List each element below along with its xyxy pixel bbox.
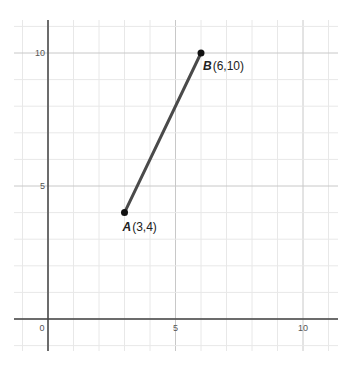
coordinate-plane[interactable]: 0510510 A(3,4)B(6,10)	[0, 0, 351, 367]
point-a[interactable]	[121, 209, 128, 216]
x-tick-label: 10	[298, 323, 308, 333]
tick-labels: 0510510	[35, 48, 308, 333]
point-b[interactable]	[198, 50, 205, 57]
grid-lines	[14, 20, 338, 351]
point-labels: A(3,4)B(6,10)	[122, 59, 245, 234]
point-label-b: B(6,10)	[203, 59, 244, 73]
x-tick-label: 5	[173, 323, 178, 333]
point-label-a: A(3,4)	[122, 220, 157, 234]
x-tick-label: 0	[39, 323, 44, 333]
y-tick-label: 10	[35, 48, 45, 58]
y-tick-label: 5	[40, 181, 45, 191]
